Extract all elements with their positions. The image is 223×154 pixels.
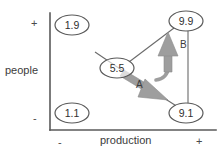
node-5-5-label: 5.5 bbox=[110, 62, 125, 74]
node-9-1[interactable]: 9.1 bbox=[169, 103, 203, 123]
arrow-a-label: A bbox=[136, 80, 143, 90]
node-1-9[interactable]: 1.9 bbox=[55, 15, 89, 35]
x-axis-positive-tick: + bbox=[196, 136, 202, 147]
node-9-9[interactable]: 9.9 bbox=[169, 11, 203, 31]
node-1-1-label: 1.1 bbox=[65, 107, 80, 119]
x-axis-negative-tick: - bbox=[58, 137, 62, 148]
y-axis-label: people bbox=[5, 65, 38, 76]
y-axis-negative-tick: - bbox=[33, 113, 37, 124]
arrow-b-head bbox=[158, 32, 178, 56]
node-1-9-label: 1.9 bbox=[65, 19, 80, 31]
node-9-1-label: 9.1 bbox=[179, 107, 194, 119]
y-axis-positive-tick: + bbox=[31, 18, 37, 29]
arrow-b-label: B bbox=[180, 40, 187, 50]
managerial-grid-diagram: 1.9 9.9 5.5 1.1 9.1 + people - - product… bbox=[0, 0, 223, 154]
node-9-9-label: 9.9 bbox=[179, 15, 194, 27]
node-5-5[interactable]: 5.5 bbox=[100, 58, 134, 78]
x-axis-label: production bbox=[100, 135, 151, 146]
node-1-1[interactable]: 1.1 bbox=[55, 103, 89, 123]
